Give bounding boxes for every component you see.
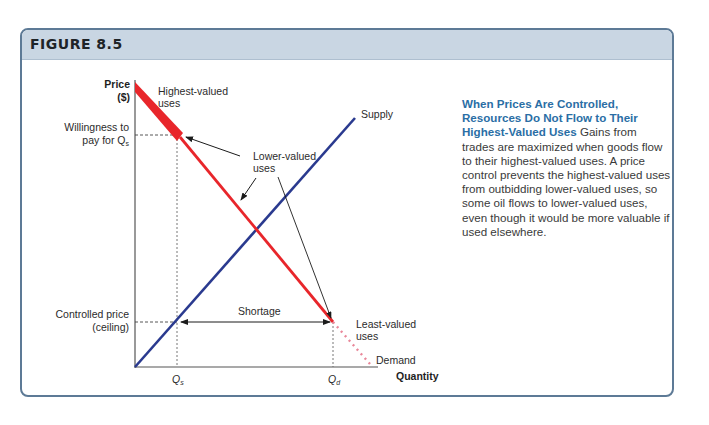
controlled-price-label-2: (ceiling) xyxy=(92,321,129,333)
highest-valued-label-2: uses xyxy=(158,97,180,109)
lower-valued-label-2: uses xyxy=(253,162,275,174)
price-unit-label: ($) xyxy=(117,91,130,103)
caption-body: Gains from trades are maximized when goo… xyxy=(462,125,670,237)
lower-valued-label-1: Lower-valued xyxy=(253,150,316,162)
arrow-to-qd xyxy=(278,177,331,318)
shortage-label: Shortage xyxy=(238,305,281,317)
willingness-label-1: Willingness to xyxy=(64,121,129,133)
supply-label: Supply xyxy=(361,108,394,120)
willingness-label-2: pay for Qs xyxy=(82,134,129,147)
arrow-to-mid-demand xyxy=(241,178,256,200)
supply-line xyxy=(135,118,355,367)
least-valued-label-2: uses xyxy=(356,330,378,342)
controlled-price-label-1: Controlled price xyxy=(55,308,129,320)
demand-label: Demand xyxy=(376,354,416,366)
least-valued-label-1: Least-valued xyxy=(356,318,416,330)
qs-tick-label: Qs xyxy=(172,373,184,386)
qd-tick-label: Qd xyxy=(328,373,341,386)
highest-valued-label-1: Highest-valued xyxy=(158,85,228,97)
price-axis-label: Price xyxy=(104,78,130,90)
figure-caption: When Prices Are Controlled, Resources Do… xyxy=(462,97,672,239)
quantity-axis-label: Quantity xyxy=(396,370,439,382)
